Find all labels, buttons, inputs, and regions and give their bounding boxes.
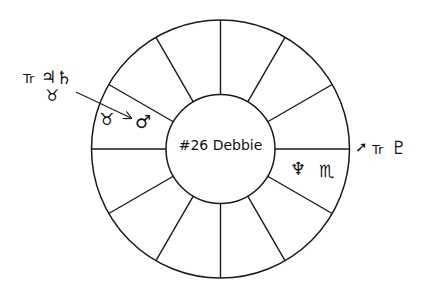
chart-center-label: #26 Debbie	[166, 138, 275, 152]
neptune-icon: ♆	[290, 160, 306, 178]
sagittarius-icon: ➚	[355, 140, 368, 155]
astrology-chart: #26 Debbie Tr ♃ ♄ ♉ ♉ ♂ ♆ ♏ ➚ Tr ♇	[0, 0, 425, 295]
right-transit-prefix: Tr	[372, 143, 383, 156]
taurus-icon: ♉	[45, 88, 59, 104]
jupiter-icon: ♃	[41, 69, 56, 86]
mars-icon: ♂	[135, 113, 151, 131]
scorpio-icon: ♏	[319, 163, 334, 180]
left-transit-prefix: Tr	[23, 72, 34, 85]
house-taurus-icon: ♉	[99, 111, 114, 128]
saturn-icon: ♄	[56, 69, 72, 87]
pluto-icon: ♇	[391, 139, 407, 157]
